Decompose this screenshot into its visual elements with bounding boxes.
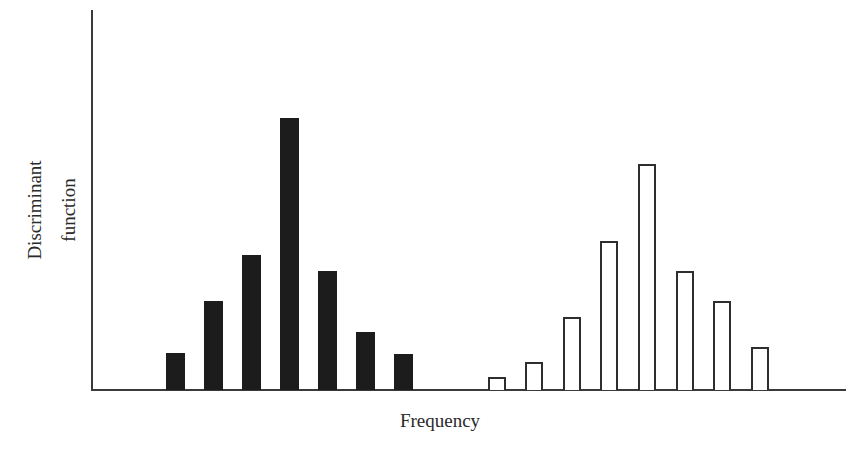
outline-bar bbox=[488, 377, 506, 390]
outline-bar bbox=[563, 317, 581, 390]
filled-bar bbox=[318, 271, 337, 390]
filled-bar bbox=[280, 118, 299, 390]
outline-bar bbox=[525, 362, 543, 390]
outline-bar bbox=[638, 164, 656, 390]
outline-bar bbox=[751, 347, 769, 390]
y-axis-label-line-2: function bbox=[52, 160, 86, 259]
filled-bar bbox=[166, 353, 185, 390]
outline-bar bbox=[713, 301, 731, 390]
x-axis-label: Frequency bbox=[340, 408, 540, 434]
filled-bar bbox=[204, 301, 223, 390]
y-axis-label-line-1: Discriminant bbox=[18, 160, 52, 259]
filled-bar bbox=[394, 354, 413, 390]
outline-bar bbox=[676, 271, 694, 390]
discriminant-histogram-chart: Discriminant function Frequency bbox=[0, 0, 866, 453]
y-axis-label: Discriminant function bbox=[2, 120, 102, 300]
filled-bar bbox=[356, 332, 375, 390]
filled-bar bbox=[242, 255, 261, 390]
outline-bar bbox=[600, 241, 618, 390]
